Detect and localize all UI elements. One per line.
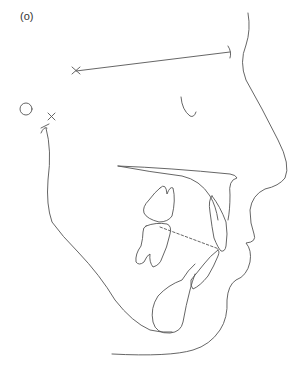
cephalometric-tracing	[0, 0, 305, 366]
orbit-curve	[181, 97, 196, 117]
upper-molar	[144, 186, 175, 222]
cross-marker-porion	[48, 113, 55, 120]
symphysis	[152, 264, 195, 333]
palate-inner-curve	[118, 166, 218, 220]
palatal-plane	[118, 166, 237, 220]
lower-incisor	[191, 250, 219, 289]
sella-circle-icon	[20, 103, 32, 115]
upper-incisor	[209, 196, 227, 251]
mandible-outline	[41, 128, 172, 333]
lower-molar	[136, 223, 171, 267]
reference-line	[72, 46, 231, 74]
